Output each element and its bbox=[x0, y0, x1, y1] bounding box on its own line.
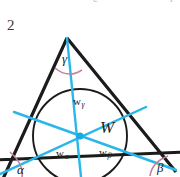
label-bisector-beta-base: w bbox=[99, 146, 107, 158]
triangle-incircle-figure bbox=[0, 0, 180, 177]
label-angle-beta: β bbox=[157, 161, 163, 174]
label-incenter-w: W bbox=[100, 119, 114, 136]
label-bisector-gamma-sub: γ bbox=[81, 100, 84, 109]
label-bisector-alpha-base: w bbox=[56, 147, 64, 159]
triangle-outline bbox=[0, 38, 180, 177]
label-angle-gamma: γ bbox=[62, 52, 67, 65]
label-bisector-alpha: wα bbox=[56, 148, 69, 161]
figure-page: ' c r 2 γ α β W wγ wα wβ bbox=[0, 0, 180, 177]
angle-arc-gamma bbox=[55, 68, 82, 74]
label-bisector-beta-sub: β bbox=[107, 151, 111, 160]
label-angle-alpha: α bbox=[17, 163, 24, 176]
label-bisector-alpha-sub: α bbox=[64, 152, 68, 161]
label-bisector-gamma-base: w bbox=[73, 95, 81, 107]
label-bisector-beta: wβ bbox=[99, 147, 111, 160]
angle-arcs bbox=[10, 68, 168, 177]
label-bisector-gamma: wγ bbox=[73, 96, 85, 109]
incenter-point bbox=[76, 132, 83, 139]
